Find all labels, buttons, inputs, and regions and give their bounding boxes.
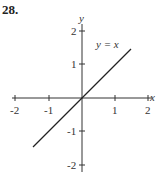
x-axis-label: x [149,91,155,103]
x-tick-label: 2 [145,104,151,116]
line-annotation: y = x [95,38,119,50]
y-tick-label: -1 [67,125,76,137]
x-tick-label: -1 [44,104,53,116]
x-tick-label: -2 [10,104,19,116]
y-axis-label: y [78,12,84,24]
x-tick-label: 1 [112,104,118,116]
y-tick-label: -2 [67,159,76,171]
plot-area: -2 -1 1 2 2 1 -1 -2 x y y = x [0,0,156,177]
y-tick-label: 2 [71,25,77,37]
y-tick-label: 1 [71,58,77,70]
